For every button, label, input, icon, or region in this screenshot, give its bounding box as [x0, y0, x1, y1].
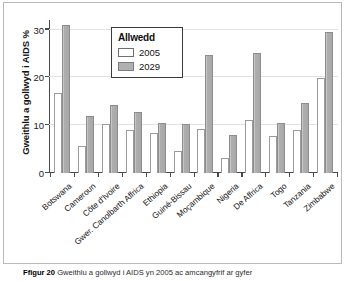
legend-item-2029: 2029	[118, 61, 176, 72]
bar-2005	[150, 133, 158, 173]
bar-group	[217, 20, 241, 173]
y-tick-label: 20	[33, 72, 44, 83]
legend-label-2005: 2005	[139, 47, 160, 58]
y-tick-label: 10	[33, 120, 44, 131]
bar-2029	[134, 112, 142, 173]
y-tick-label: 30	[33, 24, 44, 35]
bar-group	[313, 20, 337, 173]
bar-2005	[317, 78, 325, 173]
figure-container: Gweithlu a gollwyd i AIDS % 0102030 Bots…	[0, 0, 345, 281]
bar-2029	[110, 105, 118, 173]
bar-2029	[205, 55, 213, 173]
bar-2029	[229, 135, 237, 173]
bar-group	[289, 20, 313, 173]
bar-2005	[245, 120, 253, 173]
legend-label-2029: 2029	[139, 61, 160, 72]
bar-2029	[158, 123, 166, 173]
bar-2029	[253, 53, 261, 173]
figure-caption-label: Ffigur 20	[23, 268, 55, 277]
bar-group	[194, 20, 218, 173]
x-axis-labels: BotswanaCamerounCôte d'IvoireGwer. Canol…	[49, 175, 345, 261]
bar-groups	[49, 20, 338, 173]
legend-item-2005: 2005	[118, 47, 176, 58]
bar-group	[50, 20, 74, 173]
bar-2005	[174, 151, 182, 173]
bar-2005	[197, 129, 205, 173]
chart-panel: Gweithlu a gollwyd i AIDS % 0102030 Bots…	[3, 2, 342, 264]
bar-2029	[325, 32, 333, 173]
bar-2005	[102, 124, 110, 173]
bar-2005	[126, 130, 134, 173]
bar-2029	[301, 103, 309, 173]
bar-2005	[269, 136, 277, 173]
legend: Allwedd 2005 2029	[111, 27, 183, 78]
figure-caption: Ffigur 20 Gweithlu a gollwyd i AIDS yn 2…	[23, 268, 335, 281]
bar-2005	[221, 158, 229, 173]
plot-area: 0102030	[49, 20, 338, 173]
bar-2029	[62, 25, 70, 173]
bar-group	[265, 20, 289, 173]
white-swatch-icon	[118, 48, 134, 57]
bar-2005	[293, 130, 301, 173]
y-tick-label: 0	[39, 168, 44, 179]
bar-2005	[54, 93, 62, 173]
bar-group	[74, 20, 98, 173]
bar-group	[241, 20, 265, 173]
bar-2029	[86, 116, 94, 173]
legend-title: Allwedd	[118, 32, 176, 43]
gray-swatch-icon	[118, 62, 134, 71]
y-axis-title: Gweithlu a gollwyd i AIDS %	[20, 13, 31, 173]
bar-2005	[78, 146, 86, 173]
bar-2029	[277, 123, 285, 173]
figure-caption-text: Gweithlu a gollwyd i AIDS yn 2005 ac amc…	[57, 268, 252, 277]
bar-2029	[182, 124, 190, 173]
